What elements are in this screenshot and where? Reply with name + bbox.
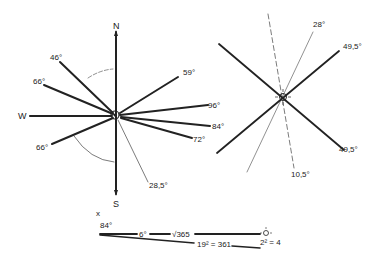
bottom-angle-6-label: 6°: [139, 230, 147, 239]
angle-96-label: 96°: [208, 101, 220, 110]
moon-icon: [95, 230, 99, 238]
small-mark: x: [96, 209, 100, 218]
bottom-angle-84-label: 84°: [100, 221, 112, 230]
angle-46-label: 46°: [50, 53, 62, 62]
south-label: S: [113, 199, 119, 209]
angle-59-label: 59°: [183, 68, 195, 77]
angle-49-5-upper-label: 49,5°: [343, 42, 362, 51]
sun-small-icon: [260, 227, 272, 236]
angle-28-5-label: 28,5°: [149, 181, 168, 190]
square-361-label: 19² = 361: [197, 240, 232, 249]
angle-66-upper-label: 66°: [33, 77, 45, 86]
angle-28-label: 28°: [313, 20, 325, 29]
west-label: W: [18, 111, 27, 121]
sqrt-365-label: √365: [172, 230, 190, 239]
angle-84-label: 84°: [212, 122, 224, 131]
north-label: N: [113, 21, 120, 31]
square-4-label: 2² = 4: [260, 238, 281, 247]
right-compass-rose: [217, 14, 344, 172]
angle-10-5-label: 10,5°: [291, 170, 310, 179]
angle-49-5-lower-label: 49,5°: [339, 145, 358, 154]
angle-66-lower-label: 66°: [36, 143, 48, 152]
astronomical-diagram: N S W 46° 66° 66° 59° 96° 84° 72° 28,5° …: [0, 0, 381, 263]
angle-72-label: 72°: [193, 135, 205, 144]
